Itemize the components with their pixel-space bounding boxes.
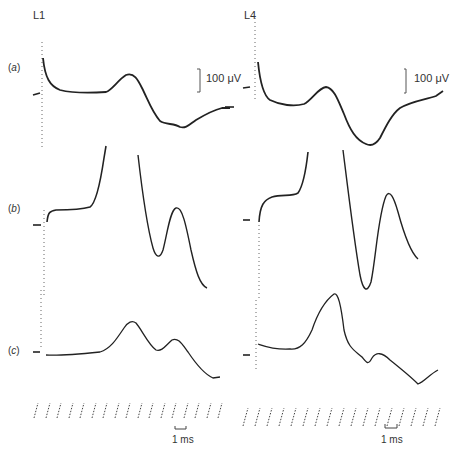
trace-L1-b-fall xyxy=(138,155,207,288)
traces-canvas xyxy=(0,0,454,453)
trace-L1-a xyxy=(43,58,230,127)
time-scale-bar-L1 xyxy=(175,426,186,429)
stimulus-dots xyxy=(41,18,259,370)
time-marker-L4 xyxy=(243,408,440,426)
trace-L1-b-rise xyxy=(47,146,106,222)
trace-L4-a xyxy=(258,62,443,145)
voltage-scale-bar-L1 xyxy=(197,69,200,92)
figure: L1 L4 (a) (b) (c) 100 μV 100 μV 1 ms 1 m… xyxy=(0,0,454,453)
trace-L4-c xyxy=(258,294,438,384)
baseline-stubs xyxy=(33,87,250,355)
trace-L1-c xyxy=(46,322,220,378)
time-scale-bar-L4 xyxy=(385,424,397,428)
time-marker-L1 xyxy=(34,403,222,418)
trace-L4-b-fall xyxy=(343,150,418,289)
trace-L4-b-rise xyxy=(259,152,308,222)
voltage-scale-bar-L4 xyxy=(404,69,406,93)
